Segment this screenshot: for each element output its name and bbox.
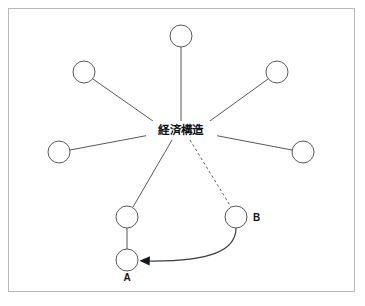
diagram-canvas: 経済構造 A B (0, 0, 365, 306)
diagram-svg: 経済構造 A B (0, 0, 365, 306)
node-upper-left[interactable] (73, 61, 95, 83)
edge-b-to-a (146, 228, 236, 261)
edge-center-upper-right (203, 79, 268, 126)
node-label-b: B (253, 212, 260, 223)
center-label: 経済構造 (158, 123, 204, 137)
node-top[interactable] (170, 25, 192, 47)
node-left[interactable] (48, 141, 70, 163)
node-b[interactable] (225, 206, 247, 228)
edge-center-mid-lower (133, 140, 172, 207)
node-mid-lower[interactable] (116, 206, 138, 228)
node-right[interactable] (292, 141, 314, 163)
node-label-a: A (123, 272, 130, 283)
edge-center-left (70, 134, 155, 150)
edge-center-right (208, 134, 292, 150)
edge-center-upper-left (93, 79, 160, 126)
arrow-head-icon (140, 256, 151, 265)
node-a[interactable] (116, 249, 138, 271)
edge-center-b (190, 140, 231, 207)
node-upper-right[interactable] (266, 61, 288, 83)
